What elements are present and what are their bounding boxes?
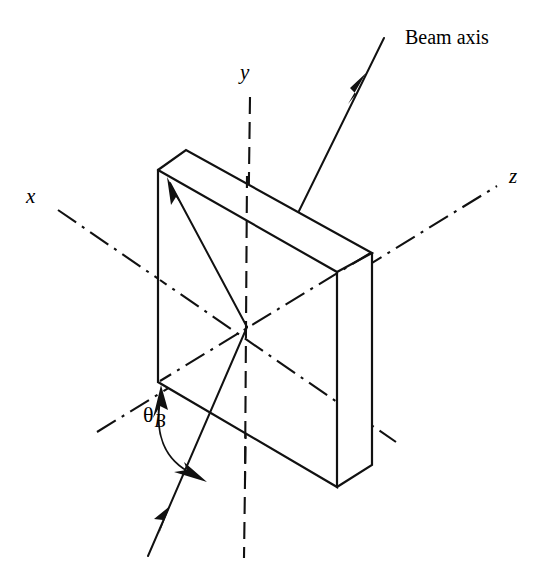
beam-axis-line	[299, 38, 384, 211]
slab-right-face-fill	[337, 253, 372, 487]
z-axis-label: z	[509, 166, 517, 187]
y-axis-label: y	[240, 62, 249, 83]
bragg-angle-label: θB	[143, 404, 166, 430]
crystal-slab	[158, 150, 372, 487]
theta-symbol: θ	[143, 402, 154, 427]
theta-subscript-b: B	[154, 411, 166, 431]
beam-axis-label: Beam axis	[405, 27, 489, 47]
diagram-canvas: Beam axis x y z θB	[0, 0, 545, 585]
x-axis-label: x	[26, 186, 35, 207]
beam-axis-arrowhead	[348, 73, 366, 104]
diagram-svg	[0, 0, 545, 585]
incident-beam-arrowhead	[154, 506, 170, 534]
